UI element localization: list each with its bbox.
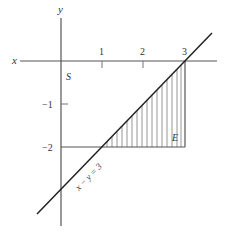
y-tick-label-minus-1: −1 <box>42 99 53 110</box>
line-equation-label: x − y = 3 <box>73 161 105 193</box>
x-axis-label: x <box>11 54 17 66</box>
region-label-s: S <box>66 71 71 82</box>
x-tick-label-2: 2 <box>140 46 145 57</box>
line-x-minus-y-equals-3 <box>37 33 212 214</box>
x-ticks <box>102 61 143 68</box>
region-label-e: E <box>171 132 178 143</box>
x-tick-label-3: 3 <box>182 46 187 57</box>
y-tick-label-minus-2: −2 <box>42 142 53 153</box>
diagram-canvas: y x 1 2 3 −1 −2 S E x − y = 3 <box>0 0 229 234</box>
x-tick-label-1: 1 <box>99 46 104 57</box>
region-e-border <box>61 61 185 147</box>
y-axis-label: y <box>57 3 63 15</box>
